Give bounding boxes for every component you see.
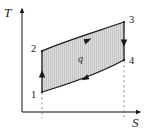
x-axis-label-S: S xyxy=(132,115,139,130)
y-axis-label-T: T xyxy=(4,5,12,20)
state-point-4 xyxy=(123,59,125,61)
heat-transfer-label-q: q xyxy=(78,53,83,64)
ts-diagram-canvas: T S 1 2 3 4 q xyxy=(0,0,147,130)
state-label-3: 3 xyxy=(129,14,134,25)
state-label-2: 2 xyxy=(31,43,36,54)
state-label-4: 4 xyxy=(129,55,135,66)
state-label-1: 1 xyxy=(31,89,36,100)
state-point-3 xyxy=(123,21,125,23)
ts-diagram-figure: T S 1 2 3 4 q xyxy=(0,0,147,130)
cycle-shaded-area xyxy=(42,22,124,92)
state-point-1 xyxy=(41,91,43,93)
state-point-2 xyxy=(41,50,43,52)
